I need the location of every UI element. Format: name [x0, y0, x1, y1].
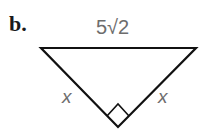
right-angle-marker — [107, 104, 129, 116]
right-triangle — [41, 48, 196, 127]
triangle-diagram — [0, 0, 207, 134]
